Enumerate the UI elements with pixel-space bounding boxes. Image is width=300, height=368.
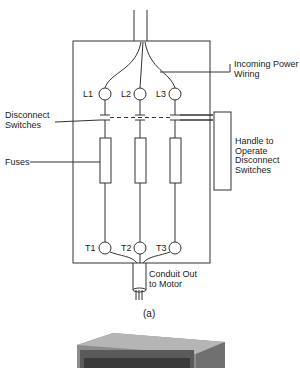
wire-l2 <box>140 42 143 88</box>
label-l1: L1 <box>83 89 93 99</box>
fuse-2 <box>135 138 146 183</box>
label-t3: T3 <box>156 243 167 253</box>
terminal-t2 <box>134 242 146 254</box>
label-l2: L2 <box>121 89 131 99</box>
label-handle: Handle to Operate Disconnect Switches <box>235 137 280 175</box>
operating-handle <box>214 112 231 190</box>
terminal-l3 <box>169 88 181 100</box>
enclosure-photo <box>77 333 225 368</box>
wire-l1 <box>105 42 141 88</box>
terminal-l2 <box>134 88 146 100</box>
label-conduit: Conduit Out to Motor <box>149 270 197 289</box>
figure-caption: (a) <box>143 308 155 319</box>
label-l3: L3 <box>156 89 166 99</box>
fuse-3 <box>170 138 181 183</box>
fuse-1 <box>100 138 111 183</box>
enclosure <box>73 41 210 263</box>
disconnect-switches <box>100 115 213 120</box>
label-fuses: Fuses <box>5 158 30 168</box>
wire-l3 <box>145 42 175 88</box>
label-incoming-power: Incoming Power Wiring <box>234 60 299 79</box>
label-disconnect-switches: Disconnect Switches <box>5 111 50 130</box>
terminal-l1 <box>99 88 111 100</box>
terminal-t1 <box>99 242 111 254</box>
label-t2: T2 <box>121 243 132 253</box>
label-t1: T1 <box>85 243 96 253</box>
terminal-t3 <box>169 242 181 254</box>
